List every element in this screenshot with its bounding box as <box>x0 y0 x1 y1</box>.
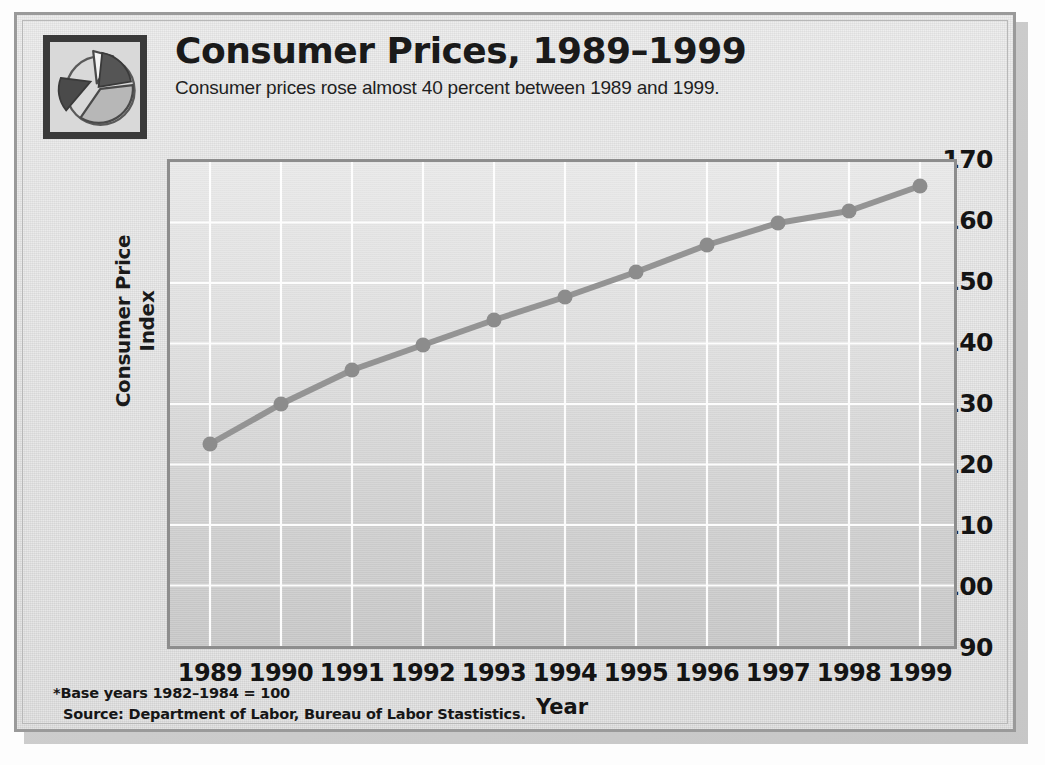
plot-area <box>167 159 957 649</box>
chart-area: Consumer Price Index 170 160 150 140 130… <box>43 147 993 727</box>
footnote-source: Source: Department of Labor, Bureau of L… <box>53 704 853 725</box>
page-title: Consumer Prices, 1989–1999 <box>175 31 746 71</box>
chart-panel: Consumer Prices, 1989–1999 Consumer pric… <box>14 12 1016 732</box>
pie-chart-icon-svg <box>50 42 140 132</box>
footnotes: *Base years 1982–1984 = 100 Source: Depa… <box>53 683 853 725</box>
chart-subtitle: Consumer prices rose almost 40 percent b… <box>175 77 746 100</box>
plot-svg <box>170 162 954 646</box>
footnote-base-years: *Base years 1982–1984 = 100 <box>53 683 853 704</box>
pie-chart-icon <box>43 35 147 139</box>
title-block: Consumer Prices, 1989–1999 Consumer pric… <box>175 31 746 99</box>
y-axis-title: Consumer Price Index <box>111 211 159 431</box>
x-tick-1999: 1999 <box>875 659 965 687</box>
chart-header: Consumer Prices, 1989–1999 Consumer pric… <box>43 31 983 143</box>
chart-figure: Consumer Prices, 1989–1999 Consumer pric… <box>0 0 1045 765</box>
